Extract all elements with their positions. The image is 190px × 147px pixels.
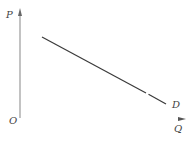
y-axis-label: P — [6, 10, 13, 20]
curve-label-d: D — [172, 100, 180, 110]
x-axis-arrow-icon — [178, 117, 186, 121]
demand-line-segment-1 — [42, 37, 146, 93]
demand-line-segment-2 — [149, 94, 167, 104]
demand-diagram — [0, 0, 190, 147]
y-axis-arrow-icon — [18, 8, 22, 16]
origin-label: O — [9, 116, 17, 126]
x-axis-label: Q — [174, 124, 182, 134]
